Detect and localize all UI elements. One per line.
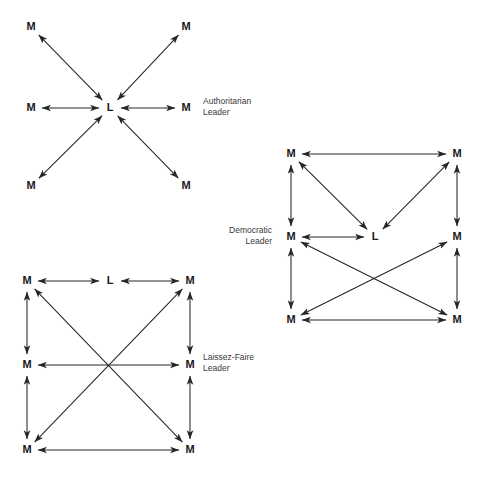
laissez-faire-caption-line-1: Laissez-Faire	[203, 352, 254, 362]
authoritarian-node-member-se: M	[181, 179, 190, 191]
democratic-node-member-tl: M	[286, 147, 295, 159]
authoritarian-node-leader: L	[107, 101, 114, 113]
laissez-faire-caption-line-2: Leader	[203, 363, 230, 373]
authoritarian-caption-line-2: Leader	[203, 107, 230, 117]
democratic-node-member-mr: M	[452, 230, 461, 242]
democratic-node-member-br: M	[452, 313, 461, 325]
laissez-faire-node-member-ml: M	[22, 358, 31, 370]
laissez-faire-node-member-tr: M	[185, 274, 194, 286]
authoritarian-node-member-nw: M	[26, 20, 35, 32]
democratic-caption-line-1: Democratic	[229, 225, 273, 235]
authoritarian-node-member-ne: M	[181, 20, 190, 32]
authoritarian-node-member-w: M	[26, 101, 35, 113]
democratic-caption-line-2: Leader	[246, 236, 273, 246]
democratic-node-member-ml: M	[286, 230, 295, 242]
laissez-faire-node-member-mr: M	[185, 358, 194, 370]
authoritarian-node-member-e: M	[181, 101, 190, 113]
figure-background	[0, 0, 483, 477]
leadership-diagram-figure: LMMMMMMMMMLMMMMLMMMMM AuthoritarianLeade…	[0, 0, 483, 477]
democratic-node-member-tr: M	[452, 147, 461, 159]
democratic-node-leader: L	[372, 230, 379, 242]
laissez-faire-node-member-br: M	[185, 443, 194, 455]
laissez-faire-node-member-tl: M	[22, 274, 31, 286]
laissez-faire-node-member-bl: M	[22, 443, 31, 455]
laissez-faire-node-leader: L	[107, 274, 114, 286]
authoritarian-caption-line-1: Authoritarian	[203, 96, 251, 106]
authoritarian-node-member-sw: M	[26, 179, 35, 191]
democratic-node-member-bl: M	[286, 313, 295, 325]
